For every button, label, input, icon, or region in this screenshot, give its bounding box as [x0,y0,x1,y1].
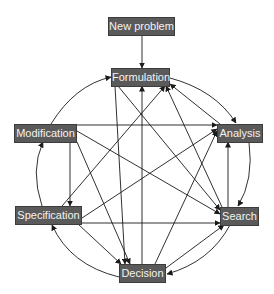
node-specification: Specification [15,206,82,225]
edge-specification-decision [78,224,121,264]
edge-specification-formulation [62,86,165,206]
edge-search-formulation [166,86,222,207]
edge-decision-specification-arc [52,225,119,277]
node-analysis: Analysis [217,124,263,143]
edge-formulation-search [118,86,220,210]
edge-modification-search [77,131,220,214]
process-diagram [0,0,274,294]
edge-analysis-formulation [170,84,220,124]
node-new-problem: New problem [108,17,175,36]
edge-specification-modification-arc [36,142,43,206]
node-search: Search [220,207,259,226]
edge-modification-formulation-arc [51,77,111,124]
edge-modification-decision [77,142,130,264]
edge-analysis-search-arc [238,142,250,206]
edge-formulation-decision [115,86,125,264]
edge-decision-search [166,225,224,268]
edge-search-decision-arc [167,225,230,274]
edge-decision-analysis [155,131,217,264]
node-formulation: Formulation [111,68,170,87]
node-decision: Decision [119,264,166,283]
node-modification: Modification [14,124,77,143]
